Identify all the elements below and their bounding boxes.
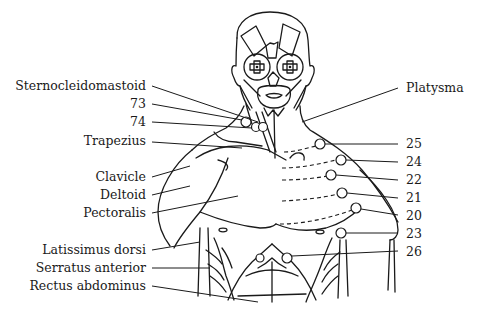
label-sternocleidomastoid: Sternocleidomastoid — [15, 78, 146, 93]
point-21 — [337, 188, 347, 198]
anatomy-diagram: Sternocleidomastoid 73 74 Trapezius Clav… — [0, 0, 485, 327]
left-labels: Sternocleidomastoid 73 74 Trapezius Clav… — [15, 78, 146, 293]
label-26: 26 — [406, 244, 422, 259]
abdomen — [228, 244, 316, 302]
point-25 — [315, 139, 325, 149]
point-73 — [241, 117, 251, 127]
label-25: 25 — [406, 136, 422, 151]
point-23 — [336, 228, 346, 238]
label-21: 21 — [406, 190, 422, 205]
label-23: 23 — [406, 226, 422, 241]
label-serratus-anterior: Serratus anterior — [36, 260, 146, 275]
label-trapezius: Trapezius — [84, 133, 146, 148]
point-24 — [336, 155, 346, 165]
label-clavicle: Clavicle — [96, 169, 146, 184]
label-20: 20 — [406, 208, 422, 223]
chest — [198, 146, 398, 302]
label-rectus-abdominus: Rectus abdominus — [29, 278, 146, 293]
point-20 — [351, 203, 361, 213]
label-73: 73 — [130, 96, 146, 111]
point-74b — [259, 123, 268, 132]
label-deltoid: Deltoid — [100, 187, 146, 202]
label-platysma: Platysma — [406, 80, 464, 95]
head-outline — [232, 12, 314, 116]
point-26 — [282, 253, 292, 263]
neck-and-shoulders — [158, 104, 398, 248]
right-labels: Platysma 25 24 22 21 20 23 26 — [406, 80, 464, 259]
label-24: 24 — [406, 154, 422, 169]
label-pectoralis: Pectoralis — [83, 205, 146, 220]
label-22: 22 — [406, 172, 422, 187]
label-latissimus-dorsi: Latissimus dorsi — [42, 242, 146, 257]
acupoints — [241, 117, 361, 263]
label-74: 74 — [130, 114, 146, 129]
point-22 — [326, 170, 336, 180]
